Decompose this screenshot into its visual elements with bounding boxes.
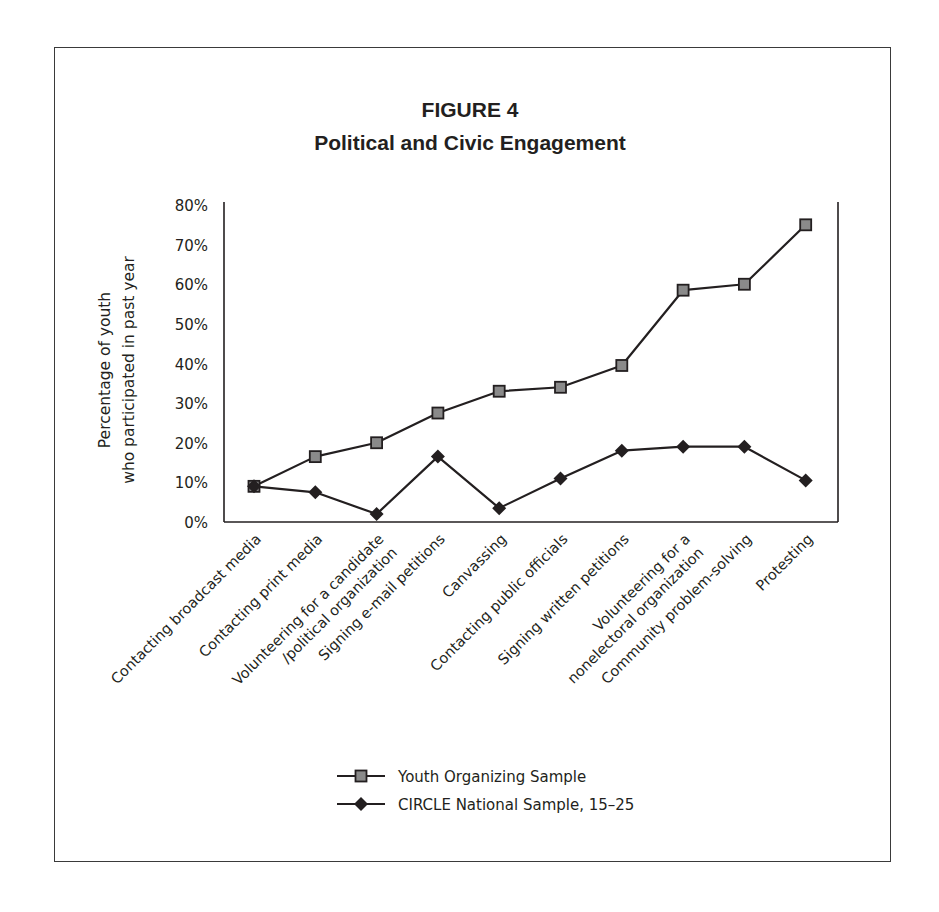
square-marker [555,382,566,393]
square-marker [310,451,321,462]
diamond-marker [615,444,629,458]
series-layer [247,219,813,521]
legend-item: Youth Organizing Sample [337,768,586,786]
legend-label: Youth Organizing Sample [397,768,586,786]
diamond-marker [308,485,322,499]
square-marker [616,360,627,371]
legend-diamond-icon [354,797,368,811]
y-tick-label: 30% [175,395,208,413]
diamond-marker [799,473,813,487]
y-axis-title-line: Percentage of youth [96,292,114,448]
x-axis-labels: Contacting broadcast mediaContacting pri… [108,531,816,702]
y-axis-title-line: who participated in past year [120,256,138,484]
y-tick-label: 70% [175,237,208,255]
x-category-label: Volunteering for a candidate/political o… [229,531,400,702]
y-tick-label: 40% [175,356,208,374]
y-axis-ticks: 0%10%20%30%40%50%60%70%80% [175,197,208,532]
square-marker [739,279,750,290]
square-marker [371,437,382,448]
y-tick-label: 60% [175,276,208,294]
square-marker [432,408,443,419]
chart-title: Political and Civic Engagement [314,131,626,154]
y-tick-label: 0% [184,514,208,532]
square-marker [800,219,811,230]
y-tick-label: 20% [175,435,208,453]
diamond-marker [737,440,751,454]
diamond-marker [676,440,690,454]
y-tick-label: 50% [175,316,208,334]
square-marker [494,386,505,397]
svg-text:Protesting: Protesting [753,531,816,594]
series-youth-organizing [249,219,812,492]
legend-item: CIRCLE National Sample, 15–25 [337,796,634,814]
legend-label: CIRCLE National Sample, 15–25 [398,796,634,814]
legend: Youth Organizing SampleCIRCLE National S… [337,768,634,814]
y-tick-label: 10% [175,474,208,492]
y-tick-label: 80% [175,197,208,215]
line-chart: FIGURE 4 Political and Civic Engagement … [0,0,939,912]
diamond-marker [554,471,568,485]
y-axis-title: Percentage of youthwho participated in p… [96,256,138,484]
square-marker [678,285,689,296]
axes [224,202,838,522]
legend-square-icon [356,771,367,782]
x-category-label: Protesting [753,531,816,594]
figure-label: FIGURE 4 [422,98,519,121]
